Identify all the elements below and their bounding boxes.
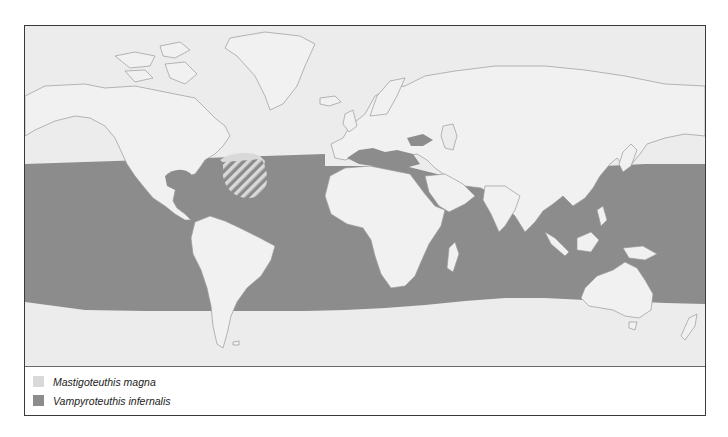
landmass-arctic-islands: [115, 42, 197, 84]
legend-item-mastigoteuthis: Mastigoteuthis magna: [33, 372, 171, 391]
landmass-tasmania: [629, 322, 637, 330]
light-grey-swatch-icon: [33, 376, 44, 387]
legend-label: Vampyroteuthis infernalis: [53, 395, 171, 407]
landmass-falklands: [233, 341, 239, 345]
figure-frame: Mastigoteuthis magna Vampyroteuthis infe…: [24, 25, 706, 416]
landmass-greenland: [225, 32, 315, 110]
world-map: [25, 26, 705, 367]
dark-grey-swatch-icon: [33, 395, 44, 406]
legend-item-vampyroteuthis: Vampyroteuthis infernalis: [33, 391, 171, 410]
legend-label: Mastigoteuthis magna: [53, 376, 156, 388]
landmass-iceland: [320, 96, 341, 106]
map-legend: Mastigoteuthis magna Vampyroteuthis infe…: [33, 372, 171, 410]
landmass-new-zealand: [681, 314, 697, 340]
distribution-map-svg: [25, 26, 705, 366]
